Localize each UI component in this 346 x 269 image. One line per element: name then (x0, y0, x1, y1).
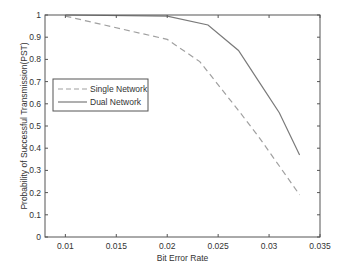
x-tick-label: 0.035 (309, 241, 331, 251)
x-tick-label: 0.01 (57, 241, 74, 251)
y-tick-label: 0.8 (29, 54, 41, 64)
y-tick-label: 0.2 (29, 188, 41, 198)
y-tick-label: 0.9 (29, 32, 41, 42)
y-tick-label: 0.6 (29, 99, 41, 109)
x-tick-label: 0.025 (208, 241, 230, 251)
legend-label: Single Network (90, 84, 148, 94)
y-tick-label: 0.5 (29, 121, 41, 131)
x-axis-label: Bit Error Rate (157, 253, 209, 263)
x-tick-label: 0.015 (106, 241, 128, 251)
line-chart: 0.010.0150.020.0250.030.03500.10.20.30.4… (0, 0, 346, 269)
y-tick-label: 0.3 (29, 165, 41, 175)
x-tick-label: 0.03 (261, 241, 278, 251)
legend: Single NetworkDual Network (53, 79, 148, 111)
legend-label: Dual Network (90, 97, 142, 107)
x-tick-label: 0.02 (159, 241, 176, 251)
y-tick-label: 0.4 (29, 143, 41, 153)
axis-ticks: 0.010.0150.020.0250.030.03500.10.20.30.4… (29, 10, 331, 251)
y-tick-label: 0.1 (29, 210, 41, 220)
y-tick-label: 1 (36, 10, 41, 20)
chart-figure: 0.010.0150.020.0250.030.03500.10.20.30.4… (0, 0, 346, 269)
y-tick-label: 0 (36, 232, 41, 242)
y-axis-label: Probability of Successful Transmission(P… (19, 42, 29, 209)
y-tick-label: 0.7 (29, 77, 41, 87)
axes-box (45, 15, 320, 237)
